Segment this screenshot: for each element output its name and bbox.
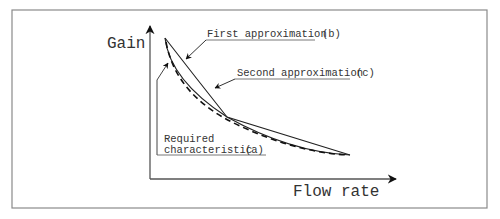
annotation-second-approximation: Second approximation (c) (215, 67, 375, 88)
label-required-tag: (a) (245, 144, 264, 156)
x-axis-label: Flow rate (293, 183, 379, 201)
label-first-approximation: First approximation (207, 28, 327, 40)
y-axis-label: Gain (107, 35, 145, 53)
diagram-figure: Gain Flow rate First approximation (b) S… (0, 0, 500, 219)
label-second-approximation: Second approximation (237, 67, 363, 79)
label-second-tag: (c) (356, 67, 375, 79)
axes (150, 26, 396, 179)
label-required-line2: characteristic (164, 144, 252, 156)
annotation-first-approximation: First approximation (b) (186, 28, 341, 59)
label-first-tag: (b) (322, 28, 341, 40)
